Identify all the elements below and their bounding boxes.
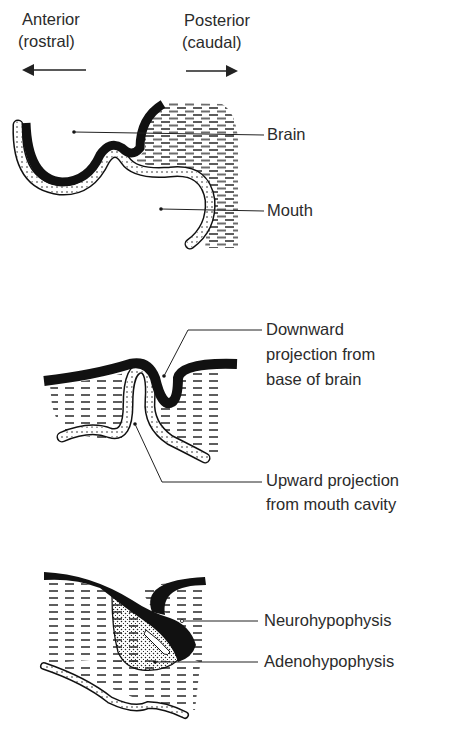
- posterior-arrow-icon: [186, 65, 238, 77]
- upward-projection-label-line2: from mouth cavity: [266, 494, 396, 515]
- panel-2-projections-forming: [44, 330, 262, 482]
- downward-projection-label-line2: projection from: [266, 344, 375, 365]
- anterior-arrow-icon: [22, 64, 86, 76]
- adenohypophysis-label: Adenohypophysis: [264, 651, 394, 672]
- upward-projection-label-line1: Upward projection: [266, 470, 399, 491]
- anterior-label: Anterior: [22, 9, 80, 30]
- brain-label: Brain: [267, 124, 306, 145]
- posterior-sublabel: (caudal): [182, 32, 242, 53]
- downward-projection-label-line3: base of brain: [266, 369, 361, 390]
- mouth-label: Mouth: [267, 200, 313, 221]
- neurohypophysis-label: Neurohypophysis: [264, 610, 392, 631]
- pituitary-development-diagram: [0, 0, 453, 744]
- posterior-label: Posterior: [184, 10, 250, 31]
- panel-1-early-embryo: [18, 102, 264, 248]
- anterior-sublabel: (rostral): [18, 31, 75, 52]
- panel-3-pituitary-formed: [44, 572, 258, 715]
- downward-projection-label-line1: Downward: [266, 319, 344, 340]
